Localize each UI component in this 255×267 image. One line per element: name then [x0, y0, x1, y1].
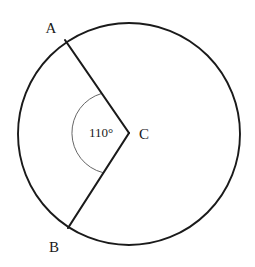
angle-measure-label: 110°	[89, 125, 113, 140]
point-label-c: C	[139, 126, 149, 142]
circle-central-angle-figure: A B C 110°	[0, 0, 255, 267]
point-label-b: B	[49, 239, 59, 255]
point-label-a: A	[46, 20, 57, 36]
diagram-canvas: A B C 110°	[0, 0, 255, 267]
